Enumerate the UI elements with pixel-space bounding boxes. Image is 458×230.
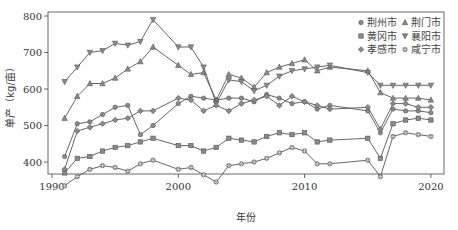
legend-item: 黄冈市 xyxy=(359,30,397,42)
x-tick-label: 1990 xyxy=(39,181,64,192)
x-tick-label: 2010 xyxy=(292,181,317,192)
legend-item: 荆州市 xyxy=(359,16,397,28)
legend-item: 咸宁市 xyxy=(403,43,441,55)
series-circle-plus xyxy=(62,131,433,188)
y-tick-label: 700 xyxy=(23,47,42,58)
legend-item: 荆门市 xyxy=(402,16,441,28)
legend-label: 襄阳市 xyxy=(411,30,441,42)
legend-label: 荆州市 xyxy=(367,16,397,28)
legend-label: 孝感市 xyxy=(367,43,397,55)
x-axis: 1990200020102020 xyxy=(39,174,443,192)
y-tick-label: 400 xyxy=(23,157,42,168)
legend-label: 荆门市 xyxy=(411,16,441,28)
legend-item: 襄阳市 xyxy=(402,30,441,42)
y-tick-label: 600 xyxy=(23,84,42,95)
x-tick-label: 2020 xyxy=(418,181,443,192)
legend: 荆州市荆门市黄冈市襄阳市孝感市咸宁市 xyxy=(358,16,441,55)
line-chart: 400500600700800 1990200020102020 单产（kg/亩… xyxy=(0,0,458,230)
legend-label: 咸宁市 xyxy=(411,43,441,55)
y-axis-title: 单产（kg/亩） xyxy=(4,62,16,128)
y-tick-label: 800 xyxy=(23,11,42,22)
x-axis-title: 年份 xyxy=(236,211,256,223)
legend-item: 孝感市 xyxy=(358,43,397,55)
y-tick-label: 500 xyxy=(23,120,42,131)
x-tick-label: 2000 xyxy=(166,181,191,192)
y-axis: 400500600700800 xyxy=(23,11,48,168)
legend-label: 黄冈市 xyxy=(367,30,397,42)
